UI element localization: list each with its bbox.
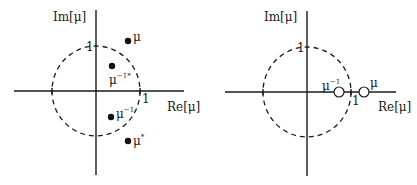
point-mu-conj: [125, 138, 131, 144]
diagram-canvas: Im[μ] 1 1 Re[μ] μ μ−1* μ−1 μ* Im[μ] 1 1 …: [0, 0, 417, 185]
point-mu-inv: [108, 114, 114, 120]
point-mu-open: [359, 87, 369, 97]
right-imag-axis-label: Im[μ]: [264, 10, 297, 24]
left-real-axis-label: Re[μ]: [167, 100, 200, 114]
point-mu: [125, 38, 131, 44]
left-y-one-label: 1: [86, 40, 94, 54]
right-y-one-label: 1: [297, 41, 305, 55]
right-x-one-label: 1: [352, 94, 360, 108]
right-panel: Im[μ] 1 1 Re[μ] μ−1 μ: [225, 10, 411, 176]
left-panel: Im[μ] 1 1 Re[μ] μ μ−1* μ−1 μ*: [14, 10, 200, 175]
point-mu-conj-label: μ*: [133, 133, 145, 148]
point-mu-inv-conj: [109, 63, 115, 69]
right-real-axis-label: Re[μ]: [378, 100, 411, 114]
left-imag-axis-label: Im[μ]: [53, 10, 86, 24]
point-mu-inv-conj-label: μ−1*: [109, 72, 131, 87]
right-mu-label: μ: [370, 76, 378, 90]
left-x-one-label: 1: [142, 92, 150, 106]
point-mu-inv-open: [334, 87, 344, 97]
point-mu-label: μ: [133, 30, 141, 44]
